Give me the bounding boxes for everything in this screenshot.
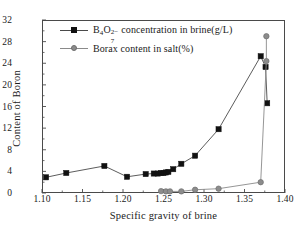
x-tick-label: 1.35 xyxy=(225,195,265,205)
chart-legend: B4O2−7 concentration in brine(g/L) Borax… xyxy=(60,22,232,58)
x-tick-label: 1.15 xyxy=(63,195,103,205)
y-tick-label: 32 xyxy=(0,16,12,26)
x-tick-label: 1.30 xyxy=(184,195,224,205)
x-axis-title: Specific gravity of brine xyxy=(42,210,285,221)
legend-item-boron-concentration[interactable]: B4O2−7 concentration in brine(g/L) xyxy=(60,22,232,38)
y-tick-label: 16 xyxy=(0,103,12,113)
x-tick-label: 1.20 xyxy=(103,195,143,205)
y-tick-label: 12 xyxy=(0,124,12,134)
y-tick-label: 8 xyxy=(0,146,12,156)
legend-swatch-square xyxy=(60,25,88,35)
y-tick-label: 0 xyxy=(0,189,12,199)
chart-figure: Content of Boron 32 28 24 20 16 12 8 4 0… xyxy=(0,0,301,238)
legend-item-borax-content[interactable]: Borax content in salt(%) xyxy=(60,40,232,56)
y-axis-title: Content of Boron xyxy=(11,39,22,179)
y-tick-label: 20 xyxy=(0,81,12,91)
x-tick-label: 1.25 xyxy=(144,195,184,205)
legend-label-borax-content: Borax content in salt(%) xyxy=(93,43,193,54)
y-tick-label: 28 xyxy=(0,38,12,48)
x-tick-label: 1.10 xyxy=(22,195,62,205)
x-tick-label: 1.40 xyxy=(265,195,301,205)
y-tick-label: 4 xyxy=(0,167,12,177)
legend-swatch-circle xyxy=(60,43,88,53)
y-tick-label: 24 xyxy=(0,59,12,69)
legend-label-boron-concentration: B4O2−7 concentration in brine(g/L) xyxy=(93,24,232,37)
